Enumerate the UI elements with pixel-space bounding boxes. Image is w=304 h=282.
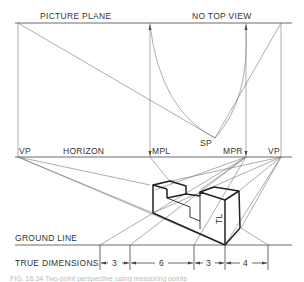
construction-line bbox=[225, 157, 281, 245]
mpl-label: MPL bbox=[152, 146, 170, 156]
arrowhead-icon bbox=[245, 151, 248, 156]
arc-mpl bbox=[150, 25, 215, 138]
vp-left-label: VP bbox=[19, 146, 31, 156]
construction-line bbox=[153, 157, 281, 185]
figure-caption: FIG. 18.34 Two-point perspective using m… bbox=[10, 275, 187, 282]
construction-line bbox=[240, 157, 281, 190]
ground-line-label: GROUND LINE bbox=[15, 233, 77, 243]
mpr-construction-line bbox=[130, 157, 246, 245]
vp-right-label: VP bbox=[268, 146, 280, 156]
dimension-value-1: 3 bbox=[112, 258, 117, 268]
object-block bbox=[153, 181, 240, 245]
true-dimensions-label: TRUE DIMENSIONS bbox=[15, 258, 99, 268]
mpr-construction-line bbox=[155, 157, 246, 190]
sp-label: SP bbox=[200, 138, 212, 148]
arc-mpr bbox=[215, 25, 246, 138]
perspective-diagram: PICTURE PLANE NO TOP VIEW VP HORIZON MPL… bbox=[0, 0, 304, 282]
dimension-value-2: 6 bbox=[159, 258, 164, 268]
mpl-construction-line bbox=[150, 157, 172, 184]
true-length-label: TL bbox=[214, 213, 224, 224]
no-top-view-label: NO TOP VIEW bbox=[192, 11, 252, 21]
dimension-value-4: 4 bbox=[243, 258, 248, 268]
construction-line bbox=[241, 228, 268, 245]
construction-line bbox=[153, 157, 281, 213]
mpr-label: MPR bbox=[223, 146, 243, 156]
sightline-right bbox=[215, 23, 281, 138]
construction-line bbox=[241, 157, 281, 228]
dimension-value-3: 3 bbox=[206, 258, 211, 268]
picture-plane-label: PICTURE PLANE bbox=[40, 11, 111, 21]
sightline-left bbox=[18, 23, 215, 138]
construction-line bbox=[18, 157, 150, 185]
horizon-label: HORIZON bbox=[63, 146, 104, 156]
